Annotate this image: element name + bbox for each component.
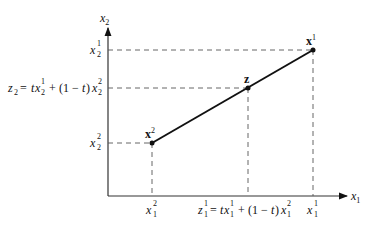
label-x1: x1 <box>306 33 316 48</box>
svg-text:): ) <box>275 203 279 217</box>
xtick-z1: z 1 1 = t x 1 1 + (1 − t ) x 2 1 <box>197 199 291 219</box>
svg-text:2: 2 <box>97 143 101 152</box>
svg-text:x: x <box>280 203 287 217</box>
point-x1 <box>311 48 316 53</box>
svg-text:2: 2 <box>97 50 101 59</box>
svg-text:1: 1 <box>314 210 318 219</box>
svg-text:x: x <box>89 43 96 57</box>
svg-text:): ) <box>86 81 90 95</box>
svg-text:1: 1 <box>204 199 208 208</box>
svg-text:1: 1 <box>230 199 234 208</box>
svg-text:2: 2 <box>41 88 45 97</box>
svg-text:x: x <box>306 203 313 217</box>
svg-text:=: = <box>210 203 217 217</box>
point-z <box>246 86 251 91</box>
svg-text:1: 1 <box>97 39 101 48</box>
svg-text:x: x <box>89 136 96 150</box>
point-x2 <box>150 141 155 146</box>
ytick-z2: z 2 = t x 1 2 + (1 − t ) x 2 2 <box>7 77 102 97</box>
x1-axis-label: x1 <box>350 189 360 205</box>
svg-text:z: z <box>197 203 203 217</box>
svg-text:(1 −: (1 − <box>59 81 79 95</box>
convex-combination-diagram: x1 z x2 x2 x1 x 1 2 z 2 = t x 1 2 + (1 −… <box>0 0 373 225</box>
svg-text:1: 1 <box>153 210 157 219</box>
svg-text:2: 2 <box>14 88 18 97</box>
xtick-x1-1: x 1 1 <box>306 199 318 219</box>
ytick-x2-1: x 1 2 <box>89 39 101 59</box>
svg-text:x: x <box>223 203 230 217</box>
guide-lines <box>108 50 313 196</box>
segment-x2-to-x1 <box>152 50 313 143</box>
svg-text:2: 2 <box>287 199 291 208</box>
svg-text:1: 1 <box>314 199 318 208</box>
svg-text:x: x <box>145 203 152 217</box>
svg-text:2: 2 <box>98 77 102 86</box>
label-x2: x2 <box>145 126 155 141</box>
svg-text:z: z <box>7 81 13 95</box>
svg-text:x: x <box>34 81 41 95</box>
svg-text:1: 1 <box>204 210 208 219</box>
svg-text:+: + <box>49 81 56 95</box>
svg-text:1: 1 <box>287 210 291 219</box>
svg-text:1: 1 <box>41 77 45 86</box>
x2-axis-label: x2 <box>99 11 109 27</box>
label-z: z <box>244 72 250 86</box>
svg-text:2: 2 <box>97 132 101 141</box>
svg-text:1: 1 <box>230 210 234 219</box>
svg-text:x: x <box>91 81 98 95</box>
ytick-x2-2: x 2 2 <box>89 132 101 152</box>
svg-text:2: 2 <box>153 199 157 208</box>
xtick-x1-2: x 2 1 <box>145 199 157 219</box>
svg-text:=: = <box>20 81 27 95</box>
svg-text:2: 2 <box>98 88 102 97</box>
svg-text:+: + <box>238 203 245 217</box>
svg-text:(1 −: (1 − <box>248 203 268 217</box>
